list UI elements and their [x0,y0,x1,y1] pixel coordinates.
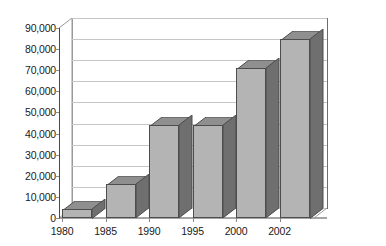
y-axis-tick-label: 80,000 [4,44,56,54]
y-axis-tick-label: 10,000 [4,192,56,202]
bar-chart: 010,00020,00030,00040,00050,00060,00070,… [0,0,386,246]
bar [280,29,310,218]
x-axis-tick [236,218,237,222]
x-axis-tick [62,218,63,222]
bar [193,115,223,218]
bar-front-face [106,184,136,218]
bar-side-face [310,29,324,218]
plot-back-wall-left-edge [72,18,73,208]
y-axis-tick-label: 50,000 [4,107,56,117]
x-axis-tick-label: 1980 [42,225,82,237]
x-axis-tick-label: 2002 [260,225,300,237]
bar-side-face [92,199,106,219]
bar-front-face [193,125,223,218]
x-axis-tick [280,218,281,222]
bar-side-face [223,115,237,218]
x-axis-tick [149,218,150,222]
bar [236,58,266,218]
y-axis-tick-label: 0 [4,213,56,223]
bar-front-face [62,209,92,219]
x-axis-tick-label: 1985 [86,225,126,237]
bar [149,115,179,218]
bar-side-face [136,174,150,218]
bar [62,199,92,219]
y-axis-tick-label: 90,000 [4,23,56,33]
plot-area [59,18,327,218]
value-axis-wall [59,18,73,218]
y-axis-tick-label: 40,000 [4,129,56,139]
bar-side-face [266,58,280,218]
gridline [72,18,327,19]
bar-side-face [179,115,193,218]
x-axis-tick-label: 1995 [173,225,213,237]
x-axis-tick-label: 1990 [129,225,169,237]
x-axis-tick-label: 2000 [216,225,256,237]
y-axis-tick-label: 60,000 [4,86,56,96]
y-axis-tick-label: 20,000 [4,171,56,181]
y-axis-tick-label: 30,000 [4,150,56,160]
y-axis-line [59,28,60,218]
bar [106,174,136,218]
x-axis-tick [193,218,194,222]
bar-front-face [236,68,266,218]
y-axis-tick-label: 70,000 [4,65,56,75]
x-axis-tick [106,218,107,222]
bar-front-face [280,39,310,218]
bar-front-face [149,125,179,218]
